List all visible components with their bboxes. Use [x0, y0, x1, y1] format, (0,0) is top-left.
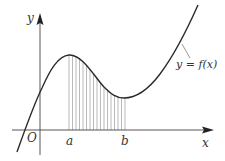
x-axis-label: x	[202, 136, 209, 150]
function-graph: y x O a b y = f(x)	[0, 0, 225, 161]
curve-label: y = f(x)	[175, 58, 217, 71]
y-axis-label: y	[26, 11, 34, 25]
x-axis	[12, 127, 214, 134]
upper-bound-label-b: b	[121, 134, 129, 148]
origin-label: O	[27, 131, 37, 145]
shaded-area-hatching	[69, 55, 125, 130]
lower-bound-label-a: a	[66, 134, 73, 148]
y-axis	[37, 13, 44, 155]
curve-label-leader	[182, 44, 190, 58]
